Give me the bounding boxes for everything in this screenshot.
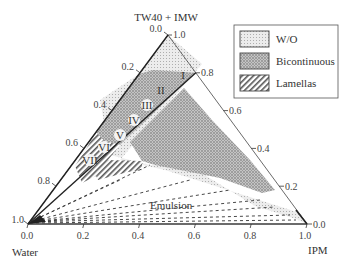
legend-swatch-bicontinuous	[240, 53, 269, 69]
right-tick-1: 0.8	[201, 67, 214, 78]
emulsion-label: Emulsion	[150, 199, 193, 211]
top-vertex-label: TW40 + IMW	[134, 11, 198, 23]
region-iv-label: IV	[128, 114, 140, 126]
region-v-label: V	[116, 129, 124, 141]
bottom-tick-4: 0.8	[244, 230, 257, 241]
right-tick-5: 0.0	[313, 219, 326, 230]
left-tick-5: 1.0	[12, 214, 25, 225]
right-tick-3: 0.4	[257, 143, 270, 154]
left-tick-0: 0.0	[150, 23, 163, 34]
region-iii-label: III	[142, 99, 153, 111]
region-i-label: I	[181, 69, 185, 81]
region-ii-label: II	[157, 84, 165, 96]
legend-label-lamellas: Lamellas	[276, 77, 316, 89]
left-tick-1: 0.2	[122, 61, 135, 72]
left-tick-2: 0.4	[94, 99, 107, 110]
left-tick-4: 0.8	[38, 175, 51, 186]
ipm-vertex-label: IPM	[308, 244, 328, 256]
legend: W/O Bicontinuous Lamellas	[234, 25, 338, 98]
right-tick-0: 1.0	[173, 29, 186, 40]
left-tick-3: 0.6	[66, 137, 79, 148]
region-vii-label: VII	[82, 154, 98, 166]
bottom-tick-3: 0.6	[188, 230, 201, 241]
right-tick-4: 0.2	[285, 181, 298, 192]
legend-label-wo: W/O	[276, 33, 297, 45]
right-tick-2: 0.6	[229, 105, 242, 116]
bottom-tick-1: 0.2	[77, 230, 90, 241]
bottom-tick-0: 0.0	[21, 230, 34, 241]
legend-swatch-wo	[240, 31, 269, 47]
legend-label-bicontinuous: Bicontinuous	[276, 55, 335, 67]
bottom-axis-ticks	[27, 224, 307, 228]
bottom-tick-2: 0.4	[132, 230, 145, 241]
bottom-axis-labels: 0.0 0.2 0.4 0.6 0.8 1.0	[21, 230, 312, 241]
water-vertex-label: Water	[12, 246, 38, 258]
legend-swatch-lamellas	[240, 75, 269, 91]
region-vi-label: VI	[98, 141, 110, 153]
bottom-tick-5: 1.0	[299, 230, 312, 241]
ternary-diagram: 0.0 0.2 0.4 0.6 0.8 1.0 1.0 0.8 0.6 0.4 …	[0, 0, 351, 266]
